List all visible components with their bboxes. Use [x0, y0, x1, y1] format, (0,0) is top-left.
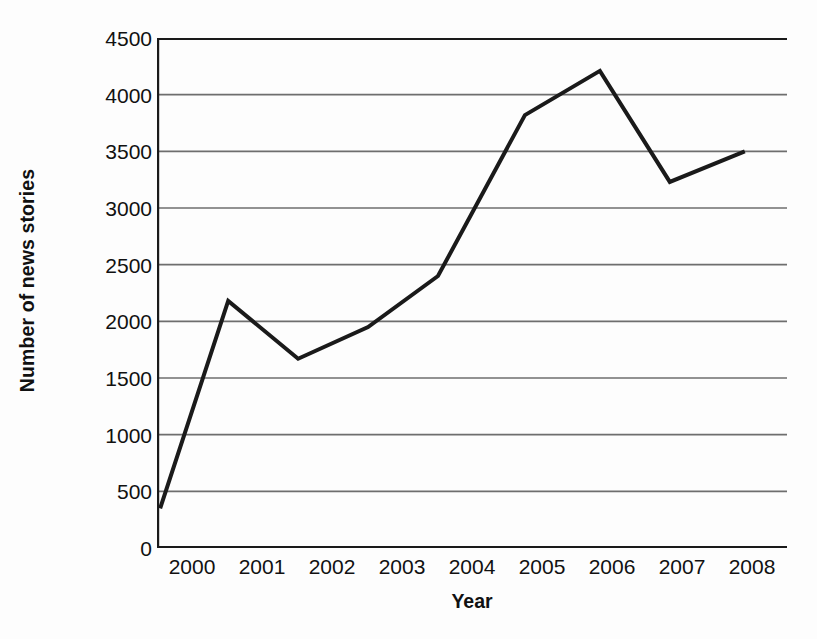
x-tick-label-2004: 2004	[449, 556, 496, 577]
y-tick-label-4000: 4000	[60, 84, 152, 105]
y-tick-label-2500: 2500	[60, 254, 152, 275]
y-axis-tick-labels: 050010001500200025003000350040004500	[56, 0, 152, 639]
x-tick-label-2002: 2002	[309, 556, 356, 577]
y-tick-label-0: 0	[60, 538, 152, 559]
axis-frame	[157, 38, 787, 548]
x-tick-label-2003: 2003	[379, 556, 426, 577]
x-tick-label-2005: 2005	[519, 556, 566, 577]
x-tick-label-2007: 2007	[659, 556, 706, 577]
y-tick-label-3000: 3000	[60, 198, 152, 219]
y-tick-label-3500: 3500	[60, 141, 152, 162]
chart-figure: Number of news stories 05001000150020002…	[0, 0, 817, 639]
y-tick-label-1500: 1500	[60, 368, 152, 389]
y-tick-label-1000: 1000	[60, 424, 152, 445]
x-tick-label-2000: 2000	[169, 556, 216, 577]
plot-area	[157, 38, 787, 548]
y-axis-title: Number of news stories	[17, 168, 40, 391]
x-tick-label-2006: 2006	[589, 556, 636, 577]
line-chart-svg	[157, 38, 787, 548]
x-axis-tick-labels: 200020012002200320042005200620072008	[157, 556, 787, 586]
y-tick-label-2000: 2000	[60, 311, 152, 332]
x-tick-label-2008: 2008	[729, 556, 776, 577]
gridlines	[157, 95, 787, 492]
y-tick-label-4500: 4500	[60, 28, 152, 49]
data-series-line	[160, 71, 745, 508]
y-tick-label-500: 500	[60, 481, 152, 502]
x-axis-title: Year	[157, 590, 787, 613]
y-axis-title-container: Number of news stories	[0, 0, 56, 560]
x-tick-label-2001: 2001	[239, 556, 286, 577]
